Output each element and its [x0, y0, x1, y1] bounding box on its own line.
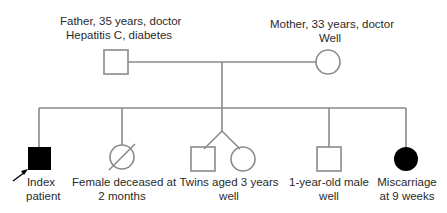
- father-label: Father, 35 years, doctor Hepatitis C, di…: [60, 14, 178, 42]
- index-label: Index patient: [26, 175, 56, 203]
- twins-label: Twins aged 3 years well: [179, 175, 279, 203]
- twin-female-circle: [231, 147, 255, 171]
- index-patient-square: [28, 147, 51, 170]
- female-deceased-label: Female deceased at 2 months: [72, 175, 172, 203]
- male-1yr-square: [317, 147, 341, 171]
- father-square: [104, 50, 128, 74]
- mother-label: Mother, 33 years, doctor Well: [270, 17, 390, 45]
- mother-circle: [316, 50, 340, 74]
- deceased-slash: [109, 144, 135, 170]
- miscarriage-label: Miscarriage at 9 weeks: [374, 175, 440, 203]
- twin-male-square: [191, 147, 215, 171]
- miscarriage-circle: [394, 147, 418, 171]
- male-1yr-label: 1-year-old male well: [287, 175, 371, 203]
